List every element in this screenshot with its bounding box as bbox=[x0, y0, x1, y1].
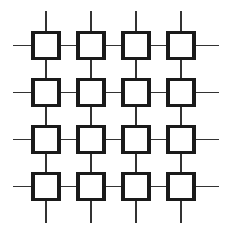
node-r2c2 bbox=[78, 80, 104, 106]
node-r3c4 bbox=[168, 127, 194, 153]
node-r1c3 bbox=[123, 33, 149, 59]
node-r2c1 bbox=[33, 80, 59, 106]
node-r4c3 bbox=[123, 174, 149, 200]
node-r4c1 bbox=[33, 174, 59, 200]
node-r1c2 bbox=[78, 33, 104, 59]
node-r1c1 bbox=[33, 33, 59, 59]
node-r4c2 bbox=[78, 174, 104, 200]
lattice-figure bbox=[0, 0, 234, 236]
node-r3c2 bbox=[78, 127, 104, 153]
node-r3c1 bbox=[33, 127, 59, 153]
node-r3c3 bbox=[123, 127, 149, 153]
node-r2c4 bbox=[168, 80, 194, 106]
lattice-canvas bbox=[0, 0, 234, 236]
node-r4c4 bbox=[168, 174, 194, 200]
node-r1c4 bbox=[168, 33, 194, 59]
node-r2c3 bbox=[123, 80, 149, 106]
